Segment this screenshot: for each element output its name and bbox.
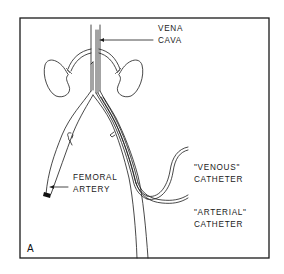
right-kidney [117, 60, 142, 97]
vena-cava-trunk [91, 25, 100, 93]
panel-label: A [27, 243, 34, 254]
left-kidney [44, 60, 69, 97]
femoral-artery-label-line1: FEMORAL [73, 173, 117, 182]
vena-cava-label-line1: VENA [158, 24, 183, 33]
vascular-catheter-diagram: VENA CAVA FEMORAL ARTERY "VENOUS" CATHET… [0, 0, 284, 274]
arterial-catheter-label-line2: CATHETER [194, 220, 243, 229]
right-renal-vessels [99, 49, 121, 74]
femoral-artery-end [43, 192, 51, 198]
femoral-artery-label-line2: ARTERY [73, 185, 110, 194]
venous-catheter [147, 147, 188, 199]
left-renal-vessels [66, 49, 91, 74]
venous-catheter-label-line2: CATHETER [194, 175, 243, 184]
arterial-catheter [136, 183, 188, 203]
vena-cava-label-line2: CAVA [158, 36, 182, 45]
venous-catheter-label-line1: "VENOUS" [194, 163, 240, 172]
arterial-catheter-label-line1: "ARTERIAL" [194, 208, 247, 217]
